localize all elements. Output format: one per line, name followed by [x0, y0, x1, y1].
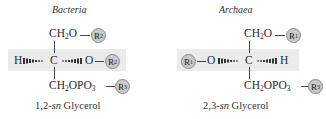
- archaea-h-atom: H: [280, 55, 288, 67]
- bacteria-middle-r-circle: R2: [105, 54, 120, 69]
- bacteria-middle-bond: [95, 61, 104, 62]
- archaea-o-atom: O: [207, 55, 215, 67]
- bacteria-top-r-circle: R2: [91, 28, 106, 43]
- bacteria-bottom-group: CH2OPO3: [49, 80, 96, 93]
- archaea-caption: 2,3-sn Glycerol: [203, 100, 268, 111]
- bacteria-bottom-r-circle: R3: [115, 79, 130, 94]
- archaea-bottom-bond: [301, 86, 308, 87]
- archaea-bottom-group: CH2OPO3: [244, 80, 291, 93]
- bacteria-center-carbon: C: [50, 55, 58, 67]
- bacteria-o-atom: O: [85, 55, 93, 67]
- archaea-top-r-circle: R1: [286, 28, 301, 43]
- bacteria-h-atom: H: [14, 55, 22, 67]
- bacteria-caption: 1,2-sn Glycerol: [35, 100, 100, 111]
- archaea-left-bond: [197, 61, 206, 62]
- archaea-bottom-r-circle: R3: [308, 79, 323, 94]
- bacteria-hashed-wedge-left: [23, 56, 49, 66]
- archaea-hashed-wedge-right: [255, 56, 279, 66]
- bacteria-top-bond: [80, 35, 90, 36]
- bacteria-bottom-bond: [106, 86, 115, 87]
- archaea-upper-vertical-bond: [249, 41, 250, 53]
- bacteria-title: Bacteria: [52, 4, 86, 15]
- bacteria-upper-vertical-bond: [54, 41, 55, 53]
- archaea-title: Archaea: [219, 4, 253, 15]
- archaea-top-group: CH2O: [244, 28, 272, 41]
- archaea-hashed-wedge-left: [218, 56, 244, 66]
- archaea-top-bond: [275, 35, 285, 36]
- archaea-center-carbon: C: [245, 55, 253, 67]
- archaea-lower-vertical-bond: [249, 67, 250, 79]
- bacteria-hashed-wedge-right: [60, 56, 84, 66]
- bacteria-top-group: CH2O: [49, 28, 77, 41]
- bacteria-lower-vertical-bond: [54, 67, 55, 79]
- archaea-left-r-circle: R1: [181, 54, 196, 69]
